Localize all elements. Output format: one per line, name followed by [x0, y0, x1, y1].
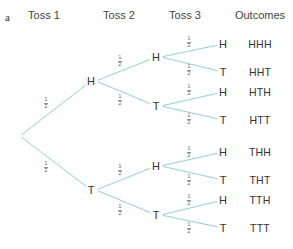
probability-fraction: 12 — [187, 174, 191, 186]
toss3-node-h: H — [218, 147, 228, 158]
fraction-denominator: 2 — [45, 168, 48, 173]
fraction-denominator: 2 — [188, 91, 191, 96]
fraction-numerator: 1 — [188, 174, 191, 179]
tree-branch — [98, 168, 151, 189]
toss1-node-h: H — [86, 76, 96, 87]
tree-branch — [98, 59, 151, 80]
probability-fraction: 12 — [44, 161, 48, 173]
tree-branch — [98, 191, 151, 213]
toss3-node-t: T — [219, 115, 228, 126]
fraction-denominator: 2 — [119, 171, 122, 176]
outcome-label: TTT — [250, 223, 270, 234]
outcome-label: TTH — [249, 195, 270, 206]
fraction-numerator: 1 — [45, 97, 48, 102]
probability-fraction: 12 — [187, 36, 191, 48]
probability-fraction: 12 — [118, 94, 122, 106]
fraction-denominator: 2 — [119, 211, 122, 216]
probability-tree-diagram: a Toss 1Toss 2Toss 3Outcomes H12T12H12T1… — [0, 0, 293, 249]
probability-fraction: 12 — [187, 146, 191, 158]
toss3-node-h: H — [218, 39, 228, 50]
fraction-numerator: 1 — [188, 36, 191, 41]
tree-branch — [98, 82, 151, 104]
fraction-denominator: 2 — [188, 229, 191, 234]
toss2-node-t: T — [152, 101, 161, 112]
probability-fraction: 12 — [187, 84, 191, 96]
toss2-node-h: H — [151, 161, 161, 172]
fraction-denominator: 2 — [188, 201, 191, 206]
probability-fraction: 12 — [118, 204, 122, 216]
fraction-denominator: 2 — [188, 43, 191, 48]
fraction-numerator: 1 — [119, 55, 122, 60]
fraction-denominator: 2 — [188, 120, 191, 125]
tree-branch — [22, 137, 87, 186]
probability-fraction: 12 — [118, 55, 122, 67]
outcome-label: THH — [249, 147, 271, 158]
fraction-denominator: 2 — [119, 101, 122, 106]
probability-fraction: 12 — [187, 64, 191, 76]
probability-fraction: 12 — [187, 194, 191, 206]
outcome-label: HTT — [249, 115, 270, 126]
probability-fraction: 12 — [187, 113, 191, 125]
fraction-denominator: 2 — [188, 181, 191, 186]
fraction-numerator: 1 — [188, 84, 191, 89]
outcome-label: HHT — [249, 67, 271, 78]
outcome-label: HHH — [248, 39, 271, 50]
fraction-denominator: 2 — [119, 62, 122, 67]
probability-fraction: 12 — [44, 97, 48, 109]
outcome-label: HTH — [249, 87, 271, 98]
outcome-label: THT — [249, 175, 270, 186]
toss3-node-h: H — [218, 195, 228, 206]
fraction-numerator: 1 — [119, 204, 122, 209]
toss2-node-t: T — [152, 210, 161, 221]
probability-fraction: 12 — [118, 164, 122, 176]
probability-fraction: 12 — [187, 222, 191, 234]
fraction-numerator: 1 — [119, 164, 122, 169]
toss3-node-t: T — [219, 67, 228, 78]
fraction-numerator: 1 — [119, 94, 122, 99]
fraction-numerator: 1 — [188, 194, 191, 199]
toss2-node-h: H — [151, 52, 161, 63]
fraction-denominator: 2 — [188, 153, 191, 158]
fraction-denominator: 2 — [188, 71, 191, 76]
fraction-numerator: 1 — [188, 113, 191, 118]
fraction-numerator: 1 — [45, 161, 48, 166]
fraction-denominator: 2 — [45, 104, 48, 109]
fraction-numerator: 1 — [188, 222, 191, 227]
toss3-node-t: T — [219, 175, 228, 186]
tree-branch — [22, 85, 87, 135]
toss1-node-t: T — [87, 185, 96, 196]
toss3-node-t: T — [219, 223, 228, 234]
toss3-node-h: H — [218, 87, 228, 98]
fraction-numerator: 1 — [188, 146, 191, 151]
fraction-numerator: 1 — [188, 64, 191, 69]
